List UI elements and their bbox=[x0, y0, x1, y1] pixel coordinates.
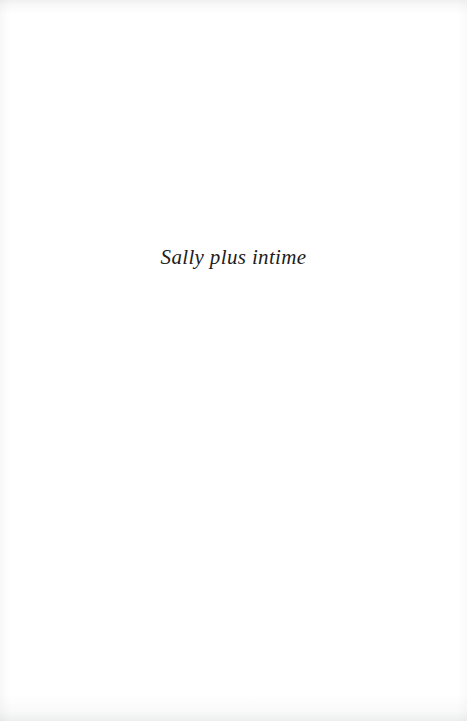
scan-shadow-top-edge bbox=[0, 0, 467, 14]
scan-shadow-bottom-edge bbox=[0, 695, 467, 721]
page-title-block: Sally plus intime bbox=[0, 243, 467, 271]
page-title: Sally plus intime bbox=[161, 243, 307, 271]
scan-shadow-right-edge bbox=[457, 0, 467, 721]
book-page: Sally plus intime bbox=[0, 0, 467, 721]
scan-shadow-left-edge bbox=[0, 0, 10, 721]
